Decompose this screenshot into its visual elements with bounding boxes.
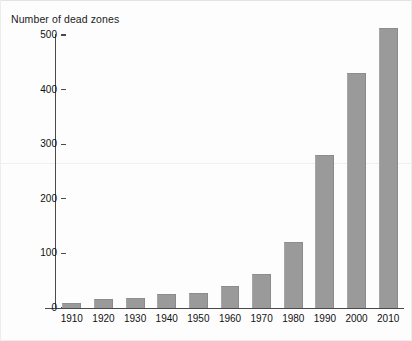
bar [157, 294, 176, 308]
page-edge-top [0, 0, 412, 1]
x-tick-label: 1920 [92, 313, 114, 324]
x-tick-label: 1910 [61, 313, 83, 324]
x-tick-label: 1990 [314, 313, 336, 324]
bar [126, 298, 145, 308]
bar [94, 299, 113, 308]
bar [315, 155, 334, 308]
x-tick-label: 1930 [124, 313, 146, 324]
bar [284, 242, 303, 308]
bar [252, 274, 271, 308]
x-tick-label: 1970 [251, 313, 273, 324]
x-axis-line [45, 308, 404, 309]
bar [62, 303, 81, 308]
dead-zones-bar-chart: Number of dead zones 0100200300400500 19… [0, 0, 412, 341]
x-axis-ticks: 1910192019301940195019601970198019902000… [56, 313, 404, 329]
x-tick-label: 2010 [377, 313, 399, 324]
bar [221, 286, 240, 308]
bar [347, 73, 366, 308]
x-tick-label: 1980 [282, 313, 304, 324]
page-edge-left [0, 0, 1, 341]
bar [189, 293, 208, 308]
x-tick-label: 2000 [345, 313, 367, 324]
bar [379, 28, 398, 308]
x-tick-label: 1960 [219, 313, 241, 324]
y-axis-title: Number of dead zones [11, 13, 119, 25]
x-tick-label: 1950 [187, 313, 209, 324]
bars-layer [56, 35, 404, 308]
x-tick-label: 1940 [156, 313, 178, 324]
